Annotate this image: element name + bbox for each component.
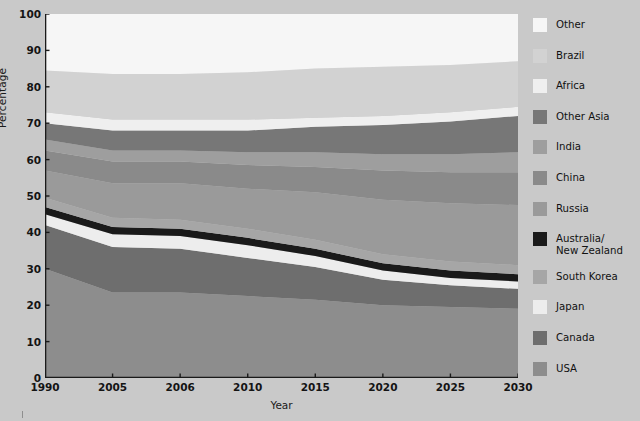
legend-label-usa: USA	[556, 362, 577, 375]
y-tick-40: 40	[11, 226, 41, 238]
legend-swatch-africa	[533, 79, 547, 93]
legend-label-russia: Russia	[556, 202, 589, 215]
x-tick-2030: 2030	[503, 381, 532, 393]
legend-label-other: Other	[556, 18, 585, 31]
legend-item-australia-new-zealand[interactable]: Australia/ New Zealand	[533, 232, 623, 256]
y-tick-60: 60	[11, 154, 41, 166]
legend-swatch-brazil	[533, 49, 547, 63]
y-tick-80: 80	[11, 81, 41, 93]
legend-swatch-china	[533, 171, 547, 185]
legend-item-south-korea[interactable]: South Korea	[533, 270, 618, 284]
legend-item-africa[interactable]: Africa	[533, 79, 585, 93]
x-tick-2025: 2025	[436, 381, 465, 393]
legend-label-brazil: Brazil	[556, 49, 584, 62]
y-tick-10: 10	[11, 336, 41, 348]
legend-swatch-other	[533, 18, 547, 32]
legend-label-south-korea: South Korea	[556, 270, 618, 283]
x-tick-2006: 2006	[166, 381, 195, 393]
y-axis-title-text: Percentage	[0, 28, 8, 168]
legend-swatch-usa	[533, 362, 547, 376]
legend-label-australia-new-zealand: Australia/ New Zealand	[556, 232, 623, 256]
legend-item-japan[interactable]: Japan	[533, 300, 584, 314]
legend-label-other-asia: Other Asia	[556, 110, 610, 123]
legend-item-russia[interactable]: Russia	[533, 202, 589, 216]
y-axis-tick-labels: 1009080706050403020100	[8, 14, 41, 378]
chart-legend: OtherBrazilAfricaOther AsiaIndiaChinaRus…	[533, 14, 640, 384]
y-tick-70: 70	[11, 117, 41, 129]
legend-item-usa[interactable]: USA	[533, 362, 577, 376]
legend-item-other-asia[interactable]: Other Asia	[533, 110, 610, 124]
x-tick-2005: 2005	[98, 381, 127, 393]
legend-swatch-india	[533, 140, 547, 154]
area-band-other	[45, 14, 518, 74]
x-tick-1990: 1990	[30, 381, 59, 393]
legend-swatch-japan	[533, 300, 547, 314]
y-tick-90: 90	[11, 44, 41, 56]
x-tick-2020: 2020	[368, 381, 397, 393]
x-axis-title: Year	[45, 399, 518, 411]
plot-area	[45, 14, 518, 378]
legend-item-other[interactable]: Other	[533, 18, 585, 32]
y-tick-50: 50	[11, 190, 41, 202]
legend-item-brazil[interactable]: Brazil	[533, 49, 584, 63]
corner-tick-mark	[22, 411, 23, 418]
legend-label-africa: Africa	[556, 79, 585, 92]
legend-swatch-other-asia	[533, 110, 547, 124]
stacked-area-chart	[45, 14, 518, 378]
y-tick-20: 20	[11, 299, 41, 311]
x-tick-2010: 2010	[233, 381, 262, 393]
legend-label-japan: Japan	[556, 300, 584, 313]
legend-item-india[interactable]: India	[533, 140, 581, 154]
x-tick-2015: 2015	[301, 381, 330, 393]
x-axis-title-text: Year	[270, 399, 292, 411]
chart-screenshot: 1009080706050403020100 Percentage 199020…	[0, 0, 640, 421]
legend-swatch-australia-new-zealand	[533, 232, 547, 246]
y-tick-30: 30	[11, 263, 41, 275]
legend-swatch-russia	[533, 202, 547, 216]
legend-item-china[interactable]: China	[533, 171, 585, 185]
legend-label-india: India	[556, 140, 581, 153]
legend-label-china: China	[556, 171, 585, 184]
x-axis-tick-labels: 19902005200620102015202020252030	[45, 381, 518, 399]
y-tick-100: 100	[11, 8, 41, 20]
y-axis-title: Percentage	[0, 28, 8, 168]
legend-label-canada: Canada	[556, 331, 595, 344]
legend-swatch-south-korea	[533, 270, 547, 284]
legend-swatch-canada	[533, 331, 547, 345]
legend-item-canada[interactable]: Canada	[533, 331, 595, 345]
